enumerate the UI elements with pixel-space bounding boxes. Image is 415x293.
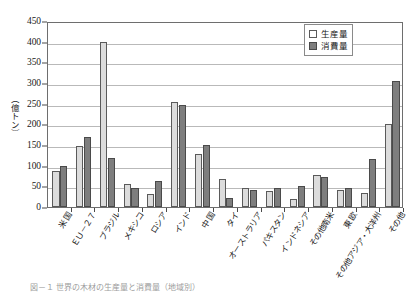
bar-group: [119, 23, 143, 207]
legend-item-production: 生産量: [309, 28, 347, 40]
bar-chart-figure: （億トン） 450400350300250200150100500 米 国ＥＵ－…: [0, 0, 415, 293]
bar-consumption: [84, 137, 91, 207]
bar-consumption: [250, 190, 257, 207]
y-tick-label: 150: [27, 141, 41, 151]
x-tick-label: ロシア: [149, 211, 169, 235]
bar-production: [290, 199, 297, 207]
y-tick-label: 300: [27, 79, 41, 89]
x-tick-label: その他アジア・大洋州: [334, 211, 382, 281]
y-tick-label: 250: [27, 100, 41, 110]
bar-consumption: [203, 145, 210, 207]
bar-production: [219, 179, 226, 207]
bar-consumption: [274, 188, 281, 207]
legend-item-consumption: 消費量: [309, 40, 347, 52]
y-tick-label: 400: [27, 38, 41, 48]
bar-consumption: [298, 186, 305, 207]
chart-legend: 生産量 消費量: [304, 24, 353, 56]
bar-group: [262, 23, 286, 207]
bar-production: [361, 193, 368, 207]
bar-production: [100, 42, 107, 207]
bar-production: [266, 191, 273, 207]
legend-label-production: 生産量: [321, 29, 347, 39]
bar-production: [147, 194, 154, 207]
x-tick-label: タイ: [224, 211, 240, 229]
legend-swatch-production-icon: [309, 30, 317, 38]
y-tick-label: 50: [32, 183, 41, 193]
x-tick-label: ＥＵ－２７: [70, 211, 98, 248]
bar-production: [171, 102, 178, 207]
bar-group: [167, 23, 191, 207]
bar-production: [124, 184, 131, 207]
bar-production: [195, 154, 202, 207]
x-tick-label: ブラジル: [98, 211, 122, 242]
bar-production: [76, 146, 83, 207]
bar-production: [385, 124, 392, 207]
bar-consumption: [108, 158, 115, 207]
bar-group: [72, 23, 96, 207]
bar-group: [357, 23, 381, 207]
y-tick-label: 200: [27, 121, 41, 131]
bar-consumption: [179, 105, 186, 208]
bar-group: [238, 23, 262, 207]
figure-caption: 図－１ 世界の木材の生産量と消費量（地域別）: [30, 283, 410, 293]
bar-group: [214, 23, 238, 207]
bar-consumption: [155, 181, 162, 207]
bar-consumption: [131, 188, 138, 207]
bar-consumption: [226, 198, 233, 207]
bar-consumption: [345, 188, 352, 207]
bar-consumption: [60, 166, 67, 207]
bar-consumption: [321, 177, 328, 207]
y-tick-label: 450: [27, 17, 41, 27]
y-tick-label: 100: [27, 162, 41, 172]
bar-consumption: [369, 159, 376, 207]
bar-production: [313, 175, 320, 207]
bar-group: [48, 23, 72, 207]
bar-group: [95, 23, 119, 207]
bar-group: [143, 23, 167, 207]
x-axis-labels: 米 国ＥＵ－２７ブラジルメキシコロシアインド中 国タイオーストラリアパキスタンイ…: [0, 208, 415, 288]
legend-swatch-consumption-icon: [309, 42, 317, 50]
y-tick-label: 350: [27, 59, 41, 69]
bar-consumption: [392, 81, 399, 207]
x-tick-label: 米 国: [57, 211, 74, 230]
bar-production: [337, 190, 344, 207]
x-tick-label: インド: [173, 211, 193, 235]
bar-production: [242, 188, 249, 207]
legend-label-consumption: 消費量: [321, 41, 347, 51]
x-tick-label: メキシコ: [121, 211, 145, 242]
bar-group: [190, 23, 214, 207]
x-tick-label: 東 欧: [342, 211, 359, 230]
x-tick-label: その他南米: [307, 211, 335, 248]
y-axis: 450400350300250200150100500: [0, 22, 47, 208]
x-tick-label: 中 国: [200, 211, 217, 230]
bar-group: [380, 23, 404, 207]
x-tick-label: その他: [386, 211, 406, 235]
bar-production: [52, 171, 59, 207]
